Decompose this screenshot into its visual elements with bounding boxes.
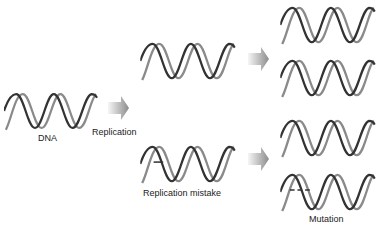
result-4-helix	[280, 171, 376, 213]
dna-label: DNA	[38, 133, 57, 143]
mutation-label: Mutation	[309, 214, 344, 224]
replication-arrow	[108, 95, 130, 121]
bottom-result-arrow	[248, 146, 270, 172]
replication-mistake-label: Replication mistake	[143, 188, 221, 198]
copy-mistake-helix	[140, 143, 236, 185]
replication-label: Replication	[92, 127, 137, 137]
result-1-helix	[280, 4, 376, 46]
top-result-arrow	[248, 46, 270, 72]
result-3-helix	[280, 117, 376, 159]
result-2-helix	[280, 57, 376, 99]
dna-helix	[4, 90, 98, 132]
copy-correct-helix	[140, 40, 236, 82]
